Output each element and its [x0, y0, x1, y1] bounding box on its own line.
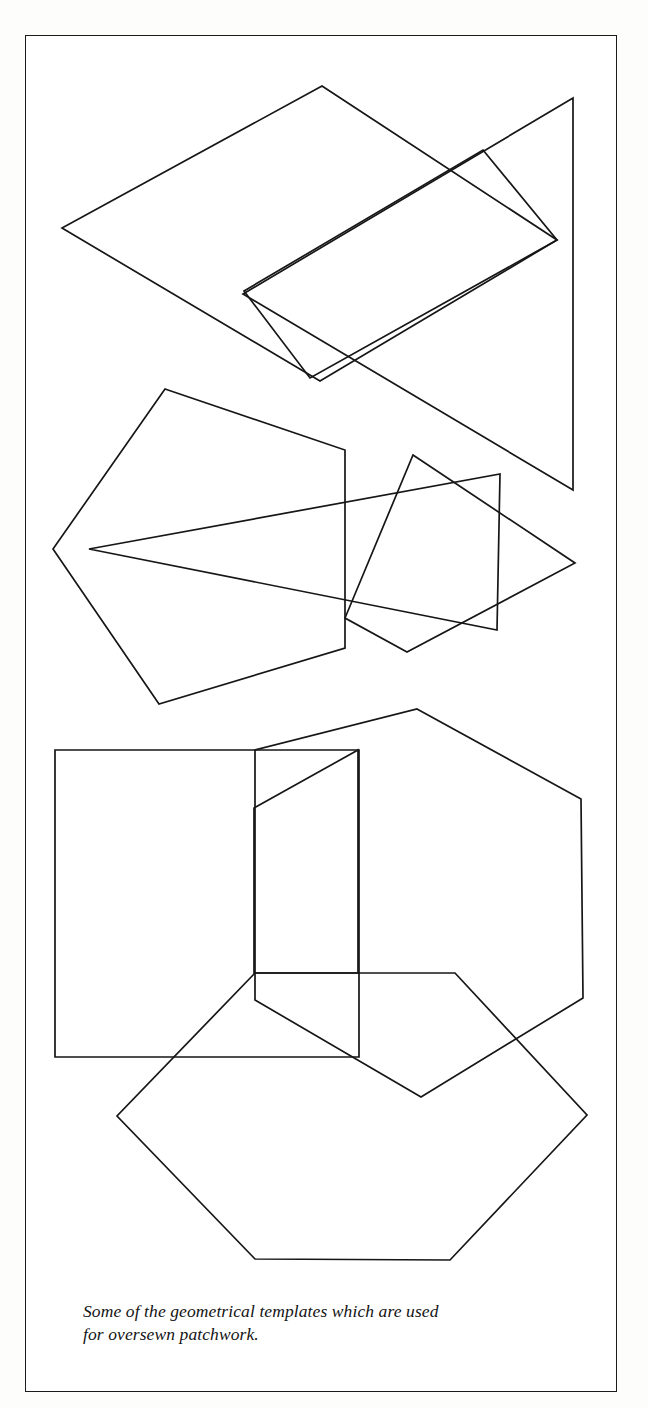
page-canvas: Some of the geometrical templates which …	[0, 0, 648, 1408]
figure-caption: Some of the geometrical templates which …	[83, 1300, 553, 1347]
caption-line-2: for oversewn patchwork.	[83, 1323, 553, 1346]
caption-line-1: Some of the geometrical templates which …	[83, 1300, 553, 1323]
plate-border-frame	[25, 35, 617, 1392]
